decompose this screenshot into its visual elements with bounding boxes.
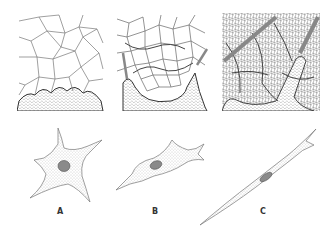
cell-a-nucleus — [58, 161, 70, 172]
cell-label-c: C — [260, 207, 266, 216]
tissue-panel-1 — [17, 13, 105, 111]
tissue-panel-3 — [222, 13, 320, 111]
cell-label-a: A — [57, 207, 63, 216]
cell-label-b: B — [152, 207, 158, 216]
cell-a-stellate — [28, 126, 104, 206]
tissue-panel-2 — [115, 13, 209, 111]
cell-c-spindle — [198, 127, 318, 227]
cell-b-elongated — [114, 136, 206, 192]
